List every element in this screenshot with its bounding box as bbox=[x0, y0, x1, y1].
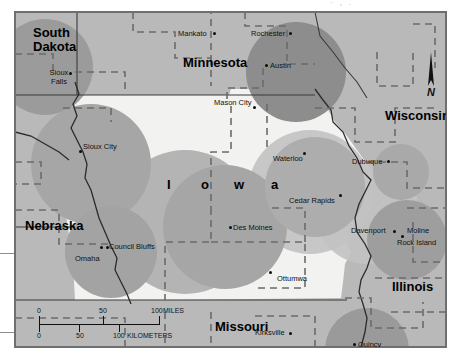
state-label-nebraska: Nebraska bbox=[25, 218, 84, 233]
circle-sioux-city bbox=[31, 104, 151, 224]
city-dot-cedar-rapids bbox=[339, 194, 342, 197]
north-arrow-label: N bbox=[427, 86, 435, 98]
city-label-rock-island: Rock Island bbox=[397, 238, 436, 247]
city-label-kirksville: Kirksville bbox=[255, 328, 285, 337]
scale-km-unit: KILOMETERS bbox=[127, 332, 172, 339]
scale-tick-k100 bbox=[119, 324, 120, 332]
scale-miles-tick-50: 50 bbox=[99, 307, 107, 314]
city-dot-quincy bbox=[353, 343, 356, 346]
city-dot-mankato bbox=[213, 32, 216, 35]
state-label-illinois: Illinois bbox=[392, 279, 433, 294]
city-label-quincy: Quincy bbox=[358, 340, 381, 348]
circle-dubuque bbox=[373, 144, 429, 200]
state-label-south-dakota: South Dakota bbox=[33, 26, 76, 54]
scale-bar: 0 50 100 MILES 0 50 100 KILOMETERS bbox=[37, 305, 212, 348]
city-label-davenport: Davenport bbox=[351, 226, 386, 235]
city-dot-des-moines bbox=[229, 226, 232, 229]
city-dot-mason-city bbox=[253, 106, 256, 109]
city-label-omaha: Omaha bbox=[75, 254, 100, 263]
city-label-des-moines: Des Moines bbox=[233, 223, 273, 232]
city-dot-rochester bbox=[289, 32, 292, 35]
scan-header-fragment: · , . bbox=[330, 0, 450, 9]
city-label-waterloo: Waterloo bbox=[273, 154, 303, 163]
city-label-austin: Austin bbox=[270, 61, 291, 70]
scale-tick-k0 bbox=[39, 324, 40, 332]
scale-axis-line bbox=[39, 324, 160, 325]
state-label-minnesota: Minnesota bbox=[183, 55, 247, 70]
city-label-rochester: Rochester bbox=[251, 29, 285, 38]
scale-km-tick-100: 100 bbox=[113, 332, 125, 339]
iowa-letter-1: I bbox=[167, 177, 171, 192]
city-label-ottumwa: Ottumwa bbox=[277, 274, 307, 283]
city-label-dubuque: Dubuque bbox=[352, 157, 382, 166]
city-dot-waterloo bbox=[303, 152, 306, 155]
state-label-south-dakota-line1: South bbox=[33, 26, 76, 40]
state-label-wisconsin: Wisconsin bbox=[385, 108, 447, 123]
state-label-south-dakota-line2: Dakota bbox=[33, 40, 76, 54]
city-label-cedar-rapids: Cedar Rapids bbox=[289, 196, 335, 205]
city-dot-ottumwa bbox=[269, 271, 272, 274]
scale-km-tick-0: 0 bbox=[37, 332, 41, 339]
city-label-sioux-city: Sioux City bbox=[83, 142, 117, 151]
city-label-sioux-falls: Sioux Falls bbox=[42, 69, 76, 86]
city-label-mason-city: Mason City bbox=[214, 98, 252, 107]
scale-km-tick-50: 50 bbox=[76, 332, 84, 339]
iowa-letter-3: w bbox=[234, 177, 244, 192]
iowa-letter-4: a bbox=[271, 177, 278, 192]
city-label-council-bluffs: Council Bluffs bbox=[109, 242, 155, 251]
circle-waterloo bbox=[265, 137, 365, 237]
city-dot-dubuque bbox=[387, 160, 390, 163]
map-screenshot: · , . bbox=[0, 0, 460, 360]
north-arrow: N bbox=[419, 50, 445, 102]
city-dot-davenport bbox=[393, 230, 396, 233]
city-label-sioux-falls-line2: Falls bbox=[42, 78, 76, 87]
scale-miles-tick-0: 0 bbox=[37, 307, 41, 314]
iowa-letter-2: o bbox=[201, 177, 209, 192]
city-dot-austin bbox=[265, 64, 268, 67]
scale-miles-unit: MILES bbox=[163, 307, 184, 314]
scale-tick-k50 bbox=[79, 324, 80, 332]
city-label-mankato: Mankato bbox=[178, 29, 207, 38]
map-frame: I o w a South Dakota Minnesota Wisconsin… bbox=[14, 11, 447, 348]
city-dot-kirksville bbox=[289, 332, 292, 335]
scale-miles-tick-100: 100 bbox=[151, 307, 163, 314]
north-arrow-needle bbox=[428, 52, 434, 86]
city-dot-sioux-city bbox=[79, 150, 82, 153]
city-label-moline: Moline bbox=[407, 226, 429, 235]
city-dot-omaha bbox=[100, 246, 103, 249]
